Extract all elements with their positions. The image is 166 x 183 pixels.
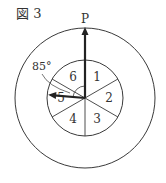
angle-arc: [73, 86, 85, 97]
sector-divider: [85, 79, 118, 98]
sector-label: 6: [69, 70, 77, 84]
figure-3-diagram: 図 3 123456 85° P: [0, 0, 166, 183]
sector-label: 4: [69, 112, 77, 126]
sector-label: 1: [93, 70, 101, 84]
angle-leader-line: [42, 74, 70, 93]
sector-divider: [85, 98, 118, 117]
sector-label: 5: [57, 91, 65, 105]
sector-label: 2: [105, 91, 113, 105]
arrow-second-head-icon: [48, 92, 56, 99]
arrow-p-label: P: [81, 12, 89, 26]
sector-label: 3: [93, 112, 101, 126]
figure-title: 図 3: [16, 6, 41, 21]
angle-label: 85°: [32, 60, 52, 73]
